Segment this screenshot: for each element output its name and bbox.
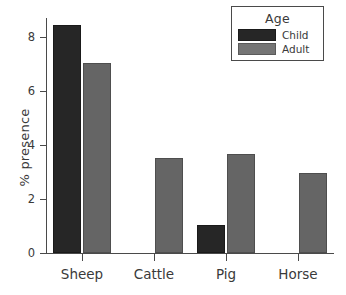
legend: Age Child Adult [231, 6, 324, 61]
y-tick-0 [40, 253, 47, 254]
y-tick-label-8: 8 [0, 30, 35, 44]
y-tick-label-0: 0 [0, 246, 35, 260]
bar-sheep-child [53, 25, 81, 253]
x-tick-pig [226, 254, 227, 261]
legend-label-child: Child [282, 29, 309, 41]
legend-entry-child: Child [238, 29, 317, 41]
legend-label-adult: Adult [282, 43, 309, 55]
y-tick-label-6: 6 [0, 84, 35, 98]
bar-chart: % presence 02468 SheepCattlePigHorse Age… [0, 0, 346, 295]
x-axis-line [46, 253, 334, 254]
x-tick-horse [298, 254, 299, 261]
x-tick-cattle [154, 254, 155, 261]
x-tick-sheep [82, 254, 83, 261]
legend-swatch-child-icon [238, 29, 276, 41]
bar-sheep-adult [83, 63, 111, 253]
legend-title: Age [238, 11, 317, 26]
bar-pig-child [197, 225, 225, 253]
y-tick-label-2: 2 [0, 192, 35, 206]
bar-cattle-adult [155, 158, 183, 253]
legend-entry-adult: Adult [238, 43, 317, 55]
bar-pig-adult [227, 154, 255, 253]
bar-horse-adult [299, 173, 327, 253]
y-tick-label-4: 4 [0, 138, 35, 152]
legend-swatch-adult-icon [238, 43, 276, 55]
x-tick-label-horse: Horse [253, 266, 343, 282]
